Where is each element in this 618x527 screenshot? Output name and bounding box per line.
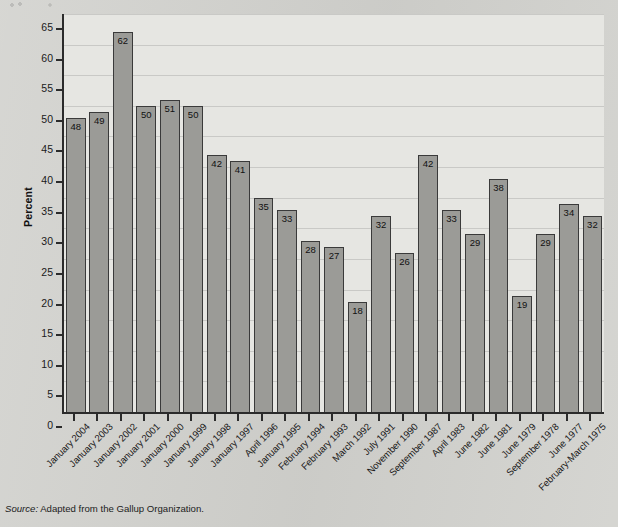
x-tick-mark (425, 414, 427, 421)
bar[interactable]: 49 (89, 112, 109, 412)
bar-value-label: 28 (305, 245, 316, 255)
bar-slot: 35 (252, 14, 275, 412)
y-tick-label: 60 (41, 52, 53, 64)
bar-value-label: 41 (235, 165, 246, 175)
bar-value-label: 33 (446, 214, 457, 224)
bar[interactable]: 42 (207, 155, 227, 412)
bar-value-label: 50 (141, 110, 152, 120)
y-tick-label: 65 (41, 21, 53, 33)
y-tick-label: 30 (41, 235, 53, 247)
y-tick-label: 15 (41, 327, 53, 339)
bar-value-label: 29 (540, 238, 551, 248)
x-tick-mark (331, 414, 333, 421)
y-axis-title: Percent (22, 187, 34, 227)
bar-slot: 19 (510, 14, 533, 412)
bar[interactable]: 26 (395, 253, 415, 412)
x-tick-mark (167, 414, 169, 421)
x-tick-mark (402, 414, 404, 421)
x-tick-mark (143, 414, 145, 421)
x-tick-mark (542, 414, 544, 421)
bar-value-label: 32 (376, 220, 387, 230)
y-tick-label: 5 (47, 388, 53, 400)
y-tick-label: 25 (41, 266, 53, 278)
bar-slot: 29 (463, 14, 486, 412)
bar-value-label: 32 (587, 220, 598, 230)
bar-value-label: 26 (399, 257, 410, 267)
chart-figure: Percent 05101520253035404550556065 48496… (0, 0, 618, 527)
y-tick-label: 0 (47, 419, 53, 431)
x-tick-mark (96, 414, 98, 421)
y-tick-label: 50 (41, 113, 53, 125)
bar[interactable]: 62 (113, 32, 133, 412)
bar-slot: 26 (393, 14, 416, 412)
x-tick-mark (355, 414, 357, 421)
bar-slot: 32 (581, 14, 604, 412)
bar-slot: 34 (557, 14, 580, 412)
bar-slot: 28 (299, 14, 322, 412)
y-tick-label: 55 (41, 82, 53, 94)
bar-slot: 33 (275, 14, 298, 412)
bar-slot: 18 (346, 14, 369, 412)
bar-slot: 50 (134, 14, 157, 412)
bar[interactable]: 29 (536, 234, 556, 412)
bar[interactable]: 18 (348, 302, 368, 412)
bar[interactable]: 32 (371, 216, 391, 412)
bar-value-label: 18 (352, 306, 363, 316)
x-tick-mark (566, 414, 568, 421)
bar[interactable]: 35 (254, 198, 274, 412)
bar[interactable]: 48 (66, 118, 86, 412)
bar-value-label: 27 (329, 251, 340, 261)
bar-slot: 42 (205, 14, 228, 412)
x-tick-mark (519, 414, 521, 421)
bar-value-label: 48 (70, 122, 81, 132)
bar[interactable]: 19 (512, 296, 532, 412)
bar[interactable]: 38 (489, 179, 509, 412)
bar-slot: 38 (487, 14, 510, 412)
bar-series: 4849625051504241353328271832264233293819… (64, 14, 604, 412)
bar-value-label: 51 (164, 104, 175, 114)
bar[interactable]: 51 (160, 100, 180, 412)
x-tick-mark (495, 414, 497, 421)
bar-value-label: 49 (94, 116, 105, 126)
bar-slot: 51 (158, 14, 181, 412)
bar[interactable]: 33 (277, 210, 297, 412)
x-tick-mark (589, 414, 591, 421)
bar[interactable]: 29 (465, 234, 485, 412)
bar-slot: 29 (534, 14, 557, 412)
x-tick-mark (214, 414, 216, 421)
bar[interactable]: 32 (583, 216, 603, 412)
bar-slot: 32 (369, 14, 392, 412)
x-tick-mark (237, 414, 239, 421)
x-tick-mark (284, 414, 286, 421)
bar-slot: 27 (322, 14, 345, 412)
y-tick-label: 20 (41, 297, 53, 309)
source-note: Source: Adapted from the Gallup Organiza… (5, 503, 204, 514)
x-tick-mark (448, 414, 450, 421)
bar-value-label: 50 (188, 110, 199, 120)
bar-value-label: 34 (564, 208, 575, 218)
bar-value-label: 42 (211, 159, 222, 169)
bar[interactable]: 42 (418, 155, 438, 412)
bar-slot: 41 (228, 14, 251, 412)
bar-value-label: 38 (493, 183, 504, 193)
x-tick-mark (378, 414, 380, 421)
plot-area: 4849625051504241353328271832264233293819… (62, 14, 604, 414)
x-tick-mark (472, 414, 474, 421)
bar[interactable]: 41 (230, 161, 250, 412)
x-tick-mark (120, 414, 122, 421)
bar[interactable]: 50 (183, 106, 203, 412)
bar[interactable]: 33 (442, 210, 462, 412)
bar-slot: 50 (181, 14, 204, 412)
bar-slot: 42 (416, 14, 439, 412)
y-tick-label: 10 (41, 358, 53, 370)
bar[interactable]: 27 (324, 247, 344, 412)
y-tick-label: 35 (41, 205, 53, 217)
bar-value-label: 33 (282, 214, 293, 224)
bar[interactable]: 28 (301, 241, 321, 412)
source-text: Adapted from the Gallup Organization. (38, 503, 204, 514)
bar-value-label: 62 (117, 36, 128, 46)
bar-value-label: 35 (258, 202, 269, 212)
bar[interactable]: 34 (559, 204, 579, 412)
x-axis-labels: January 2004January 2003January 2002Janu… (62, 421, 602, 501)
bar[interactable]: 50 (136, 106, 156, 412)
